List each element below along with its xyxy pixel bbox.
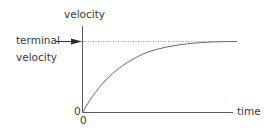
terminal-velocity-label-line2: velocity [16, 52, 57, 63]
arrow-head-icon [71, 39, 82, 45]
x-axis-label: time [237, 106, 261, 117]
x-origin-label: 0 [80, 115, 87, 126]
y-axis-label: velocity [64, 9, 105, 20]
velocity-time-graph [0, 0, 269, 128]
terminal-velocity-label-line1: terminal [16, 35, 60, 46]
velocity-curve [83, 42, 237, 113]
